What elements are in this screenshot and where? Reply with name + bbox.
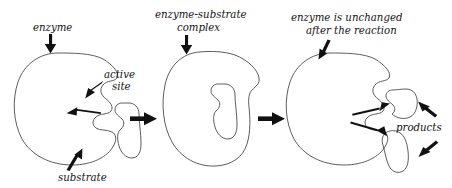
figure-canvas: enzyme active site substrate: [0, 0, 452, 188]
label-complex-line2: complex: [177, 22, 220, 33]
label-active: active: [104, 69, 135, 80]
label-unchanged-line2: after the reaction: [306, 25, 397, 36]
label-unchanged-line1: enzyme is unchanged: [291, 12, 403, 23]
label-complex-line1: enzyme-substrate: [155, 9, 247, 20]
enzyme-reaction-figure: enzyme active site substrate: [0, 0, 452, 188]
label-enzyme: enzyme: [33, 22, 72, 33]
label-site: site: [112, 81, 131, 92]
label-products: products: [396, 122, 442, 133]
label-substrate: substrate: [58, 172, 107, 183]
